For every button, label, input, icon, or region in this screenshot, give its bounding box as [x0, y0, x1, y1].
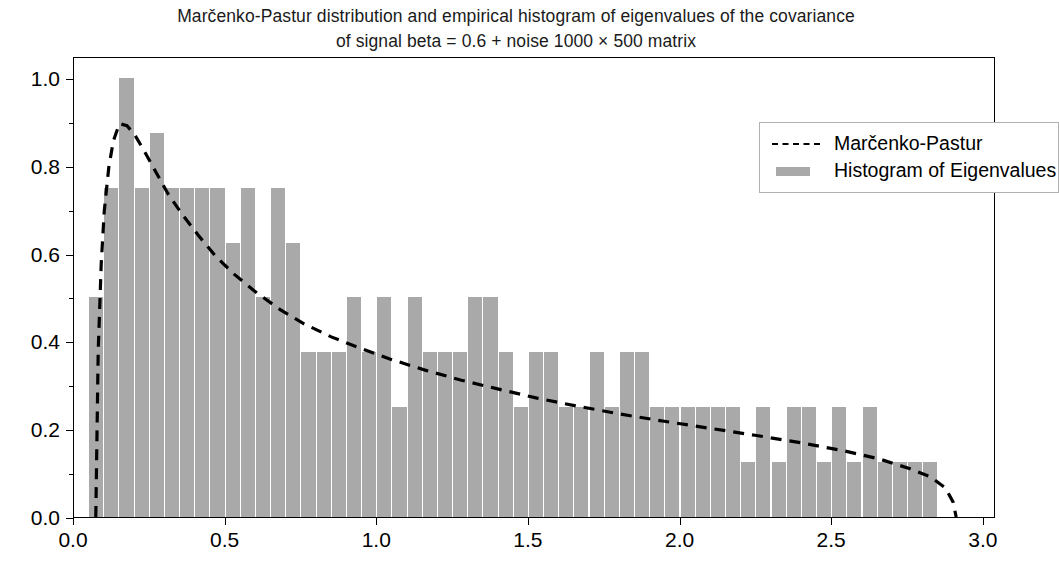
- y-tick-mark: [66, 342, 73, 343]
- x-tick-mark: [376, 518, 377, 525]
- y-tick-label: 1.0: [0, 67, 60, 91]
- patch-swatch-icon: [770, 161, 822, 181]
- chart-title-line-2: of signal beta = 0.6 + noise 1000 × 500 …: [0, 29, 1032, 54]
- legend-label-histogram: Histogram of Eigenvalues: [834, 159, 1056, 182]
- x-tick-label: 2.0: [640, 528, 720, 552]
- y-tick-label: 0.4: [0, 330, 60, 354]
- y-tick-label: 0.8: [0, 155, 60, 179]
- x-tick-label: 1.5: [488, 528, 568, 552]
- legend-label-marcenko-pastur: Marčenko-Pastur: [834, 132, 982, 155]
- chart-title-line-1: Marčenko-Pastur distribution and empiric…: [0, 4, 1032, 29]
- legend: Marčenko-Pastur Histogram of Eigenvalues: [759, 122, 1059, 193]
- x-axis-ticks: 0.00.51.01.52.02.53.0: [73, 518, 995, 558]
- plot-axes: Marčenko-Pastur Histogram of Eigenvalues: [73, 57, 995, 518]
- y-tick-mark: [66, 430, 73, 431]
- y-tick-label: 0.2: [0, 418, 60, 442]
- x-tick-mark: [831, 518, 832, 525]
- y-tick-label: 0.6: [0, 243, 60, 267]
- x-tick-mark: [528, 518, 529, 525]
- y-tick-mark: [66, 518, 73, 519]
- y-tick-mark: [66, 167, 73, 168]
- legend-item-histogram: Histogram of Eigenvalues: [770, 157, 1048, 184]
- x-tick-mark: [983, 518, 984, 525]
- x-tick-label: 2.5: [791, 528, 871, 552]
- y-tick-mark: [66, 255, 73, 256]
- y-tick-label: 0.0: [0, 506, 60, 530]
- x-tick-mark: [225, 518, 226, 525]
- legend-item-marcenko-pastur: Marčenko-Pastur: [770, 130, 1048, 157]
- x-tick-label: 0.0: [33, 528, 113, 552]
- x-tick-label: 0.5: [185, 528, 265, 552]
- chart-title: Marčenko-Pastur distribution and empiric…: [0, 4, 1032, 54]
- x-tick-mark: [680, 518, 681, 525]
- x-tick-label: 1.0: [336, 528, 416, 552]
- y-tick-mark: [66, 79, 73, 80]
- x-tick-mark: [73, 518, 74, 525]
- dashed-line-icon: [770, 134, 822, 154]
- x-tick-label: 3.0: [943, 528, 1023, 552]
